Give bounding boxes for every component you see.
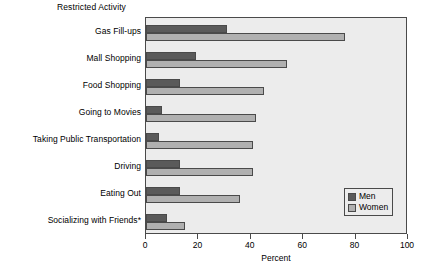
legend-item-women: Women <box>348 202 388 213</box>
legend-swatch-women-icon <box>348 204 356 212</box>
bar-women-2 <box>146 87 264 95</box>
category-label-0: Gas Fill-ups <box>95 26 141 36</box>
x-tick-20 <box>197 234 198 239</box>
bar-women-7 <box>146 222 185 230</box>
x-axis-title: Percent <box>261 253 290 263</box>
bar-women-5 <box>146 168 253 176</box>
bar-men-6 <box>146 187 180 195</box>
category-label-3: Going to Movies <box>79 107 141 117</box>
legend-label-women: Women <box>359 203 388 212</box>
x-tick-80 <box>355 234 356 239</box>
x-tick-40 <box>250 234 251 239</box>
bar-men-4 <box>146 133 159 141</box>
legend-label-men: Men <box>359 192 376 201</box>
x-tick-label-60: 60 <box>297 240 306 250</box>
category-label-1: Mall Shopping <box>86 53 141 63</box>
bar-men-0 <box>146 25 227 33</box>
x-tick-label-0: 0 <box>143 240 148 250</box>
x-tick-label-80: 80 <box>350 240 359 250</box>
bar-chart: Restricted Activity Gas Fill-upsMall Sho… <box>0 0 430 278</box>
legend-item-men: Men <box>348 191 388 202</box>
page-title: Restricted Activity <box>57 2 126 12</box>
legend-swatch-men-icon <box>348 193 356 201</box>
bar-women-1 <box>146 60 287 68</box>
bar-men-1 <box>146 52 196 60</box>
bar-men-3 <box>146 106 162 114</box>
x-tick-60 <box>302 234 303 239</box>
bar-women-3 <box>146 114 256 122</box>
x-tick-label-20: 20 <box>193 240 202 250</box>
category-label-6: Eating Out <box>100 188 141 198</box>
bar-men-5 <box>146 160 180 168</box>
x-tick-label-100: 100 <box>400 240 414 250</box>
bar-women-0 <box>146 33 345 41</box>
category-label-4: Taking Public Transportation <box>33 134 141 144</box>
category-label-7: Socializing with Friends* <box>48 215 141 225</box>
bar-men-2 <box>146 79 180 87</box>
bar-women-6 <box>146 195 240 203</box>
x-tick-label-40: 40 <box>245 240 254 250</box>
x-tick-0 <box>145 234 146 239</box>
bar-men-7 <box>146 214 167 222</box>
category-label-5: Driving <box>114 161 141 171</box>
bar-women-4 <box>146 141 253 149</box>
legend: Men Women <box>344 188 393 216</box>
category-label-2: Food Shopping <box>83 80 141 90</box>
x-tick-100 <box>407 234 408 239</box>
